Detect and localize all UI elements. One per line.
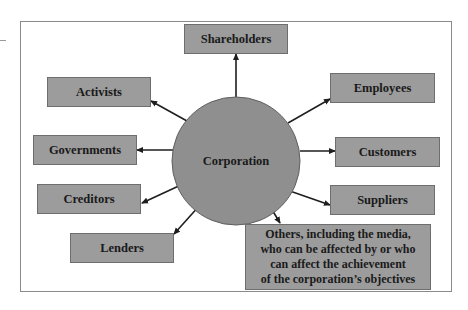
others-line-4: of the corporation’s objectives	[261, 272, 416, 287]
others-line-2: who can be affected by or who	[260, 242, 415, 257]
stakeholder-box-governments: Governments	[33, 135, 137, 165]
stakeholder-box-customers: Customers	[335, 137, 440, 167]
stakeholder-box-others: Others, including the media, who can be …	[245, 224, 431, 290]
stakeholder-box-suppliers: Suppliers	[330, 185, 435, 215]
stakeholder-box-employees: Employees	[330, 73, 435, 103]
arrow-to-employees	[288, 99, 330, 123]
arrow-to-suppliers	[287, 190, 330, 205]
stakeholder-box-lenders: Lenders	[70, 233, 174, 263]
stakeholder-box-creditors: Creditors	[37, 184, 141, 214]
others-line-1: Others, including the media,	[265, 227, 411, 242]
corporation-label: Corporation	[172, 154, 300, 169]
arrow-to-creditors	[142, 184, 183, 203]
arrow-to-activists	[151, 101, 187, 121]
stakeholder-box-shareholders: Shareholders	[184, 24, 288, 54]
stakeholder-box-activists: Activists	[47, 77, 151, 107]
others-line-3: can affect the achievement	[270, 257, 406, 272]
